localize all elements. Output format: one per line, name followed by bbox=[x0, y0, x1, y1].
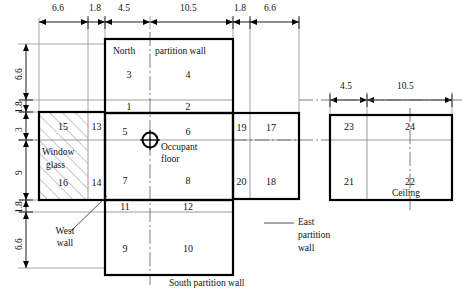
zone-cell-14: 14 bbox=[89, 177, 104, 188]
zone-cell-23: 23 bbox=[337, 121, 361, 132]
dim-top-1: 6.6 bbox=[52, 3, 64, 13]
dim-ceiling-1: 4.5 bbox=[340, 81, 352, 91]
zone-cell-19: 19 bbox=[234, 122, 249, 133]
west-wall-label-line1: West bbox=[44, 226, 86, 237]
zone-cell-12: 12 bbox=[172, 201, 204, 212]
west-wall-label-line2: wall bbox=[44, 238, 86, 249]
zone-cell-21: 21 bbox=[337, 176, 361, 187]
zone-cell-24: 24 bbox=[395, 121, 425, 132]
zone-cell-4: 4 bbox=[172, 69, 204, 80]
dim-left-3: 3 bbox=[14, 127, 24, 132]
zone-cell-10: 10 bbox=[172, 243, 204, 254]
zone-cell-18: 18 bbox=[257, 176, 285, 187]
zone-cell-8: 8 bbox=[172, 175, 204, 186]
zone-cell-17: 17 bbox=[257, 122, 285, 133]
dim-top-6: 6.6 bbox=[264, 3, 276, 13]
east-wall-label-line3: wall bbox=[298, 243, 314, 254]
dim-left-1: 6.6 bbox=[14, 68, 24, 80]
zone-cell-1: 1 bbox=[113, 101, 145, 112]
panel-grid-lines bbox=[39, 100, 452, 212]
east-wall-label-line1: East bbox=[298, 217, 314, 228]
north-panel-title-left: North bbox=[113, 46, 135, 57]
zone-cell-3: 3 bbox=[113, 69, 145, 80]
dim-left-2: 1.8 bbox=[14, 101, 24, 113]
panel-outlines bbox=[39, 39, 452, 275]
zone-cell-20: 20 bbox=[234, 176, 249, 187]
zone-cell-2: 2 bbox=[172, 101, 204, 112]
dim-left-5: 1.8 bbox=[14, 201, 24, 213]
dim-left-4: 9 bbox=[14, 170, 24, 175]
dim-top-3: 4.5 bbox=[118, 3, 130, 13]
diagram-root: 6.6 1.8 4.5 10.5 1.8 6.6 6.6 1.8 3 9 1.8… bbox=[0, 0, 462, 297]
zone-cell-6: 6 bbox=[172, 126, 204, 137]
zone-cell-13: 13 bbox=[89, 121, 104, 132]
dim-top-5: 1.8 bbox=[234, 3, 246, 13]
ceiling-label: Ceiling bbox=[392, 188, 420, 199]
dim-top-4: 10.5 bbox=[180, 3, 197, 13]
zone-cell-11: 11 bbox=[110, 201, 140, 212]
south-partition-wall-label: South partition wall bbox=[169, 278, 244, 289]
dim-left-6: 6.6 bbox=[14, 238, 24, 250]
dim-top-2: 1.8 bbox=[89, 3, 101, 13]
zone-cell-7: 7 bbox=[110, 175, 140, 186]
zone-cell-9: 9 bbox=[110, 243, 140, 254]
occupant-floor-label-line1: Occupant bbox=[161, 142, 197, 153]
north-panel-title-right: partition wall bbox=[155, 46, 206, 57]
occupant-marker bbox=[140, 130, 160, 150]
zone-cell-5: 5 bbox=[110, 126, 140, 137]
window-glass-label-line1: Window bbox=[42, 147, 74, 158]
zone-cell-22: 22 bbox=[395, 176, 425, 187]
dim-ceiling-2: 10.5 bbox=[397, 81, 414, 91]
occupant-floor-label-line2: floor bbox=[161, 154, 179, 165]
window-glass-label-line2: glass bbox=[46, 160, 65, 171]
east-wall-label-line2: partition bbox=[298, 230, 330, 241]
zone-cell-16: 16 bbox=[48, 177, 78, 188]
zone-cell-15: 15 bbox=[48, 121, 78, 132]
